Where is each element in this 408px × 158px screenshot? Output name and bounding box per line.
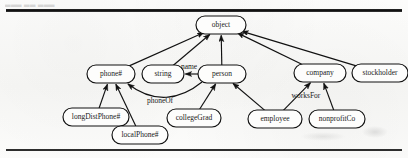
node-label-longDistPhone: longDistPhone# [72,112,121,121]
node-longDistPhone[interactable]: longDistPhone# [63,108,129,126]
node-label-string: string [154,69,171,78]
edge-nonprofitCo-company [324,83,334,110]
node-person[interactable]: person [198,65,246,83]
node-label-stockholder: stockholder [363,68,398,77]
edge-label-phoneOf: phoneOf [147,96,174,105]
node-label-employee: employee [260,114,290,123]
edge-stockholder-object [242,31,360,66]
node-string[interactable]: string [142,65,184,83]
edge-employee-person [233,83,265,110]
edge-label-name: name [181,62,198,71]
node-stockholder[interactable]: stockholder [352,64,408,82]
edge-collegeGrad-person [200,84,216,109]
node-label-collegeGrad: collegeGrad [176,113,213,122]
node-employee[interactable]: employee [248,110,302,128]
node-nonprofitCo[interactable]: nonprofitCo [309,110,365,128]
node-label-phone: phone# [100,69,122,78]
figure-page: ▃▃▃ ▃▃ ▃▃▃ objectphone#stringpersoncompa… [0,0,408,158]
node-label-nonprofitCo: nonprofitCo [319,114,356,123]
node-collegeGrad[interactable]: collegeGrad [167,109,221,127]
node-localPhone[interactable]: localPhone# [112,126,168,144]
node-label-localPhone: localPhone# [121,130,158,139]
edge-company-object [238,33,305,66]
edge-label-worksFor: worksFor [292,91,321,100]
class-hierarchy-diagram: objectphone#stringpersoncompanystockhold… [0,0,408,158]
node-object[interactable]: object [196,16,246,34]
node-label-company: company [306,68,334,77]
edge-person-object [221,35,222,65]
edge-longDistPhone-phone [99,84,107,108]
bottom-horizontal-rule [6,149,402,151]
node-phone[interactable]: phone# [87,65,135,83]
node-company[interactable]: company [294,64,346,82]
node-label-object: object [212,20,231,29]
nodes-layer: objectphone#stringpersoncompanystockhold… [63,16,408,144]
node-label-person: person [212,69,232,78]
